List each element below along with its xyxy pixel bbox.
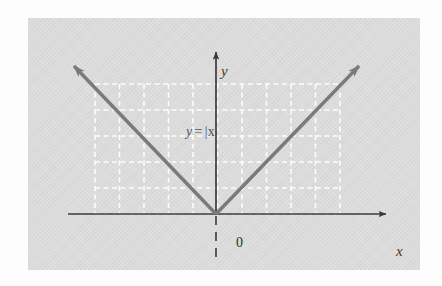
x-axis-label: x	[396, 244, 403, 259]
y-axis-label: y	[221, 64, 228, 79]
equation-rhs: |x|	[205, 124, 219, 139]
equation-lhs: y	[186, 124, 193, 139]
origin-label: 0	[236, 236, 243, 250]
curve-right-branch	[216, 66, 359, 214]
equation-operator: =	[193, 124, 205, 139]
figure-root: y x 0 y=|x|	[0, 0, 442, 286]
grid-lines	[95, 84, 340, 214]
equation-label: y=|x|	[186, 124, 218, 140]
plot-svg	[28, 18, 420, 270]
plot-panel: y x 0 y=|x|	[28, 18, 420, 270]
